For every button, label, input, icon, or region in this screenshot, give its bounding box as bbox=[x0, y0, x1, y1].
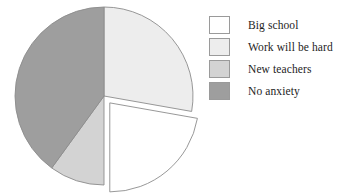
legend-label-new-teachers: New teachers bbox=[248, 63, 311, 76]
chart-legend: Big school Work will be hard New teacher… bbox=[209, 14, 345, 102]
legend-swatch-work-will-be-hard bbox=[209, 38, 230, 56]
pie-slice[interactable] bbox=[110, 103, 198, 192]
legend-item-work-will-be-hard[interactable]: Work will be hard bbox=[209, 36, 345, 58]
legend-label-no-anxiety: No anxiety bbox=[248, 85, 300, 98]
legend-label-work-will-be-hard: Work will be hard bbox=[248, 41, 333, 54]
legend-swatch-big-school bbox=[209, 16, 230, 34]
legend-swatch-new-teachers bbox=[209, 60, 230, 78]
legend-label-big-school: Big school bbox=[248, 19, 299, 32]
legend-item-big-school[interactable]: Big school bbox=[209, 14, 345, 36]
legend-item-no-anxiety[interactable]: No anxiety bbox=[209, 80, 345, 102]
pie-slice-group bbox=[15, 7, 197, 192]
pie-slice[interactable] bbox=[104, 7, 193, 111]
pie-chart-figure: Big school Work will be hard New teacher… bbox=[0, 0, 345, 196]
legend-item-new-teachers[interactable]: New teachers bbox=[209, 58, 345, 80]
legend-swatch-no-anxiety bbox=[209, 82, 230, 100]
